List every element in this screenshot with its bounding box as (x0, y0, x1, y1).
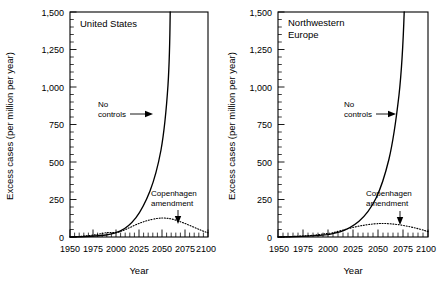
y-tick-label-0: 0 (267, 233, 272, 243)
x-tick-label-2025: 2025 (343, 244, 363, 254)
annotation-no-controls-arrow (376, 111, 396, 117)
x-tick-label-2025: 2025 (129, 244, 149, 254)
panel-title: United States (80, 18, 137, 29)
y-axis-title: Excess cases (per million per year) (4, 52, 15, 200)
y-tick-label-500: 500 (257, 158, 272, 168)
x-tick-label-2075: 2075 (175, 244, 195, 254)
annotation-no-controls-line2: controls (344, 110, 372, 119)
y-tick-label-750: 750 (257, 120, 272, 130)
y-tick-label-1500: 1,500 (249, 8, 272, 18)
x-tick-label-2050: 2050 (152, 244, 172, 254)
annotation-copenhagen-line1: Copenhagen (151, 189, 197, 198)
x-tick-label-2000: 2000 (318, 244, 338, 254)
annotation-no-controls-line1: No (344, 100, 355, 109)
x-axis-title: Year (343, 265, 362, 276)
annotation-copenhagen-arrow (397, 211, 403, 225)
annotation-no-controls-line2: controls (98, 110, 126, 119)
y-major-ticks (278, 12, 285, 237)
annotation-copenhagen-line2: amendment (366, 199, 409, 208)
y-tick-label-250: 250 (49, 195, 64, 205)
x-tick-label-2050: 2050 (368, 244, 388, 254)
y-tick-label-250: 250 (257, 195, 272, 205)
x-tick-label-1950: 1950 (60, 244, 80, 254)
x-tick-label-2100: 2100 (416, 244, 436, 254)
x-tick-label-2100: 2100 (196, 244, 216, 254)
y-tick-label-1000: 1,000 (249, 83, 272, 93)
y-tick-label-0: 0 (59, 233, 64, 243)
panel-title-line1: Northwestern (288, 17, 345, 28)
annotation-copenhagen-line2: amendment (151, 199, 194, 208)
panel-left-svg: Excess cases (per million per year) 1,50… (0, 0, 222, 286)
y-tick-label-750: 750 (49, 120, 64, 130)
annotation-no-controls-arrow (130, 111, 153, 117)
annotation-copenhagen-line1: Copenhagen (366, 189, 412, 198)
y-major-ticks (70, 12, 77, 237)
panel-title-line2: Europe (288, 29, 319, 40)
panel-right-svg: Excess cases (per million per year) 1,50… (222, 0, 444, 286)
y-axis-title: Excess cases (per million per year) (226, 52, 237, 200)
x-tick-label-1975: 1975 (83, 244, 103, 254)
y-tick-label-1000: 1,000 (41, 83, 64, 93)
x-tick-label-1975: 1975 (293, 244, 313, 254)
x-tick-label-2075: 2075 (393, 244, 413, 254)
x-tick-label-2000: 2000 (106, 244, 126, 254)
y-tick-label-1250: 1,250 (41, 45, 64, 55)
x-axis-title: Year (129, 265, 148, 276)
figure-two-panel-chart: Excess cases (per million per year) 1,50… (0, 0, 444, 286)
chart-panel-united-states: Excess cases (per million per year) 1,50… (0, 0, 222, 286)
y-tick-label-1250: 1,250 (249, 45, 272, 55)
chart-panel-northwestern-europe: Excess cases (per million per year) 1,50… (222, 0, 444, 286)
x-tick-label-1950: 1950 (269, 244, 289, 254)
annotation-no-controls-line1: No (98, 100, 109, 109)
y-tick-label-500: 500 (49, 158, 64, 168)
y-tick-label-1500: 1,500 (41, 8, 64, 18)
